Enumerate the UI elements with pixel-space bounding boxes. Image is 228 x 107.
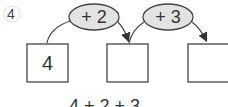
box-1-value: 4 (27, 52, 68, 75)
box-3 (188, 44, 228, 82)
problem-number: 4 (7, 6, 15, 22)
answer-line: → 4 + 2 + 3 (46, 96, 140, 107)
operation-label-1: + 2 (69, 7, 119, 28)
operation-label-2: + 3 (143, 7, 193, 28)
box-2 (107, 44, 148, 82)
